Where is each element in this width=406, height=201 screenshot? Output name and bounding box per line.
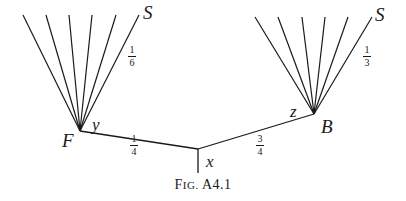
left-branch-fraction: 1 4 <box>130 134 138 157</box>
right-fan-fraction: 1 3 <box>363 45 371 68</box>
left-branch-fraction-denominator: 4 <box>132 146 137 157</box>
left-branch-fraction-numerator: 1 <box>131 134 138 145</box>
caption-prefix-small: IG. <box>183 179 199 191</box>
angle-y-label: y <box>92 116 100 133</box>
right-branch-fraction-denominator: 4 <box>258 146 263 157</box>
right-branch-fraction: 3 4 <box>256 134 264 157</box>
left-fan-lines <box>23 15 139 131</box>
right-fan-fraction-denominator: 3 <box>365 57 370 68</box>
angle-z-label: z <box>290 103 297 120</box>
junction-x-label: x <box>206 153 214 170</box>
figure-caption: FIG. A4.1 <box>0 177 406 193</box>
right-fan-lines <box>255 17 372 114</box>
left-fan-fraction-numerator: 1 <box>129 45 136 56</box>
right-fan-s-label: S <box>375 5 385 24</box>
tree-diagram <box>0 0 406 201</box>
caption-prefix-big: F <box>174 177 182 192</box>
right-branch-fraction-numerator: 3 <box>257 134 264 145</box>
right-fan-line <box>255 17 314 114</box>
right-fan-fraction-numerator: 1 <box>364 45 371 56</box>
caption-number: A4.1 <box>202 177 232 192</box>
left-fan-fraction-denominator: 6 <box>130 57 135 68</box>
branch-lines <box>80 114 314 173</box>
left-fan-s-label: S <box>143 3 153 22</box>
left-fan-line <box>80 15 139 131</box>
node-f-label: F <box>62 131 74 150</box>
left-fan-fraction: 1 6 <box>128 45 136 68</box>
node-b-label: B <box>321 117 333 136</box>
